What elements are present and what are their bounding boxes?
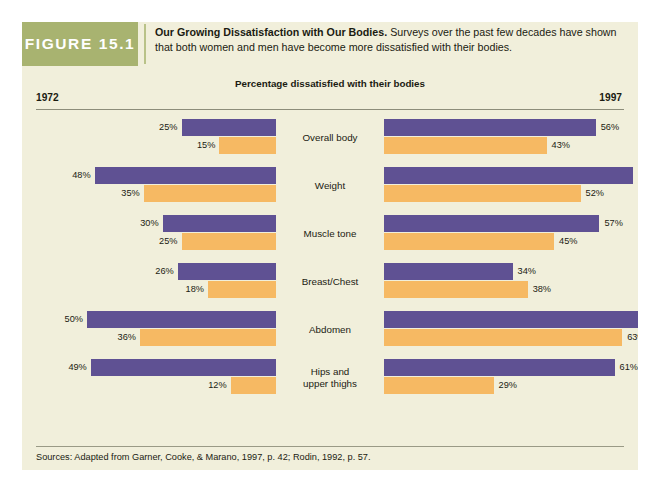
- bar-1997-women: [384, 167, 633, 184]
- bar-1972-women: [91, 359, 276, 376]
- bar-label-1997-men: 63%: [627, 329, 638, 346]
- bar-1972-women: [178, 263, 276, 280]
- bar-label-1997-women: 34%: [518, 263, 536, 280]
- bar-label-1972-women: 30%: [140, 215, 158, 232]
- figure-number-badge: FIGURE 15.1: [22, 22, 138, 66]
- figure-panel: FIGURE 15.1 Our Growing Dissatisfaction …: [22, 22, 638, 470]
- header-divider: [144, 24, 146, 64]
- bar-label-1997-men: 45%: [559, 233, 577, 250]
- figure-number-label: FIGURE 15.1: [25, 35, 136, 53]
- bar-1997-women: [384, 359, 615, 376]
- sources-note: Sources: Adapted from Garner, Cooke, & M…: [36, 452, 624, 462]
- bar-1972-men: [231, 377, 276, 394]
- chart-title: Percentage dissatisfied with their bodie…: [22, 78, 638, 89]
- bar-label-1972-women: 50%: [65, 311, 83, 328]
- bar-label-1972-women: 25%: [159, 119, 177, 136]
- bar-label-1972-men: 25%: [159, 233, 177, 250]
- bar-label-1997-men: 38%: [533, 281, 551, 298]
- category-label: Muscle tone: [276, 210, 384, 258]
- bar-label-1997-women: 61%: [620, 359, 638, 376]
- chart-row: 25%15%56%43%Overall body: [22, 114, 638, 162]
- bar-label-1997-women: 57%: [604, 215, 622, 232]
- bar-1997-men: [384, 377, 494, 394]
- bar-label-1997-men: 29%: [499, 377, 517, 394]
- bar-label-1972-men: 15%: [197, 137, 215, 154]
- figure-title: Our Growing Dissatisfaction with Our Bod…: [155, 26, 387, 38]
- bar-1997-men: [384, 137, 547, 154]
- bar-1997-men: [384, 185, 581, 202]
- bar-1972-men: [219, 137, 276, 154]
- bar-label-1972-men: 36%: [118, 329, 136, 346]
- category-label: Overall body: [276, 114, 384, 162]
- bar-1997-men: [384, 233, 554, 250]
- bar-label-1997-women: 56%: [601, 119, 619, 136]
- category-label: Weight: [276, 162, 384, 210]
- bar-1997-men: [384, 281, 528, 298]
- bar-1972-women: [87, 311, 276, 328]
- chart-row: 49%12%61%29%Hips andupper thighs: [22, 354, 638, 402]
- footer-divider: [36, 446, 624, 447]
- category-label: Hips andupper thighs: [276, 354, 384, 402]
- chart-row: 48%35%66%52%Weight: [22, 162, 638, 210]
- figure-caption: Our Growing Dissatisfaction with Our Bod…: [155, 25, 631, 65]
- chart-area: Percentage dissatisfied with their bodie…: [22, 66, 638, 426]
- bar-label-1972-men: 35%: [121, 185, 139, 202]
- bar-label-1997-men: 52%: [586, 185, 604, 202]
- bar-1997-men: [384, 329, 622, 346]
- bar-1997-women: [384, 215, 599, 232]
- bar-label-1972-women: 48%: [72, 167, 90, 184]
- bar-1972-men: [182, 233, 277, 250]
- bar-1972-women: [163, 215, 276, 232]
- bar-1972-men: [144, 185, 276, 202]
- bar-1972-men: [208, 281, 276, 298]
- panel-label-1972: 1972: [36, 92, 59, 103]
- bar-1997-women: [384, 119, 596, 136]
- chart-row: 26%18%34%38%Breast/Chest: [22, 258, 638, 306]
- axis-line: [36, 109, 624, 110]
- bar-1972-men: [140, 329, 276, 346]
- bar-label-1972-women: 26%: [155, 263, 173, 280]
- chart-row: 50%36%71%63%Abdomen: [22, 306, 638, 354]
- bar-label-1972-women: 49%: [68, 359, 86, 376]
- category-label: Breast/Chest: [276, 258, 384, 306]
- panel-label-1997: 1997: [599, 92, 622, 103]
- bar-1997-women: [384, 263, 513, 280]
- bar-1997-women: [384, 311, 638, 328]
- category-label: Abdomen: [276, 306, 384, 354]
- bar-label-1997-men: 43%: [552, 137, 570, 154]
- bar-1972-women: [95, 167, 276, 184]
- figure-header: FIGURE 15.1 Our Growing Dissatisfaction …: [22, 22, 638, 66]
- chart-rows: 25%15%56%43%Overall body48%35%66%52%Weig…: [22, 114, 638, 402]
- bar-label-1972-men: 18%: [186, 281, 204, 298]
- bar-1972-women: [182, 119, 277, 136]
- bar-label-1972-men: 12%: [208, 377, 226, 394]
- chart-row: 30%25%57%45%Muscle tone: [22, 210, 638, 258]
